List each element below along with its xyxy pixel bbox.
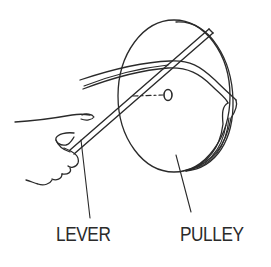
pulley-leader-line [176,155,191,212]
pulley-hub [164,90,172,101]
lever-graphic [70,29,213,154]
pulley-graphic [118,20,233,172]
pulley-label: PULLEY [180,223,244,244]
lever-leader-line [81,140,90,218]
lever-label: LEVER [56,223,110,244]
lever-pulley-illustration: LEVER PULLEY [0,0,271,267]
center-line [133,95,163,96]
